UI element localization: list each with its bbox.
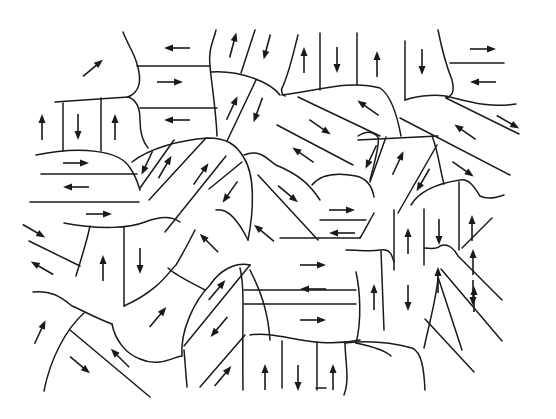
magnetization-arrow-icon — [226, 32, 239, 59]
magnetic-domain-diagram — [0, 0, 556, 419]
magnetization-arrow-icon — [164, 45, 190, 52]
magnetization-arrow-icon — [300, 286, 326, 293]
magnetization-arrow-icon — [63, 160, 89, 167]
magnetization-arrow-icon — [138, 150, 155, 177]
magnetization-arrow-icon — [137, 248, 144, 274]
magnetization-arrow-icon — [81, 57, 105, 79]
magnetization-arrow-icon — [86, 211, 112, 218]
magnetization-arrow-icon — [197, 231, 220, 254]
magnetization-arrow-icon — [212, 364, 234, 388]
magnetization-arrow-icon — [295, 365, 302, 391]
magnetization-arrows — [21, 32, 521, 391]
magnetization-arrow-icon — [63, 184, 89, 191]
magnetization-arrow-icon — [108, 346, 131, 369]
magnetization-arrow-icon — [68, 354, 92, 376]
magnetization-arrow-icon — [250, 97, 265, 124]
magnetization-arrow-icon — [208, 315, 230, 339]
magnetization-arrow-icon — [191, 161, 212, 186]
magnetization-arrow-icon — [469, 215, 476, 241]
magnetization-arrow-icon — [329, 230, 355, 237]
magnetization-arrow-icon — [112, 114, 119, 140]
magnetization-arrow-icon — [329, 207, 355, 214]
magnetization-arrow-icon — [260, 34, 273, 61]
magnetization-arrow-icon — [21, 221, 47, 240]
magnetization-arrow-icon — [100, 255, 107, 281]
magnetization-arrow-icon — [470, 46, 496, 53]
magnetization-arrow-icon — [307, 117, 332, 138]
magnetization-arrow-icon — [334, 47, 341, 73]
magnetization-arrow-icon — [301, 47, 308, 73]
magnetization-arrow-icon — [164, 117, 190, 124]
magnetization-arrow-icon — [374, 51, 381, 77]
magnetization-arrow-icon — [450, 159, 475, 180]
magnetization-arrow-icon — [355, 98, 380, 119]
magnetization-arrow-icon — [220, 179, 241, 204]
magnetization-arrow-icon — [405, 285, 412, 311]
magnetization-arrow-icon — [389, 150, 406, 177]
magnetization-arrow-icon — [470, 249, 477, 275]
magnetization-arrow-icon — [262, 364, 269, 390]
magnetization-arrow-icon — [31, 319, 48, 346]
magnetization-arrow-icon — [436, 219, 443, 245]
magnetization-arrow-icon — [252, 222, 276, 244]
magnetization-arrow-icon — [405, 228, 412, 254]
magnetization-arrow-icon — [330, 364, 337, 390]
magnetization-arrow-icon — [300, 262, 326, 269]
magnetization-arrow-icon — [157, 79, 183, 86]
magnetization-arrow-icon — [452, 122, 477, 143]
magnetization-arrow-icon — [419, 49, 426, 75]
magnetization-arrow-icon — [290, 145, 315, 166]
magnetization-arrow-icon — [29, 258, 55, 277]
magnetization-arrow-icon — [276, 183, 300, 205]
magnetization-arrow-icon — [39, 114, 46, 140]
magnetization-arrow-icon — [147, 305, 169, 329]
magnetization-arrow-icon — [75, 114, 82, 140]
magnetization-arrow-icon — [371, 284, 378, 310]
magnetization-arrow-icon — [206, 278, 228, 302]
magnetization-arrow-icon — [435, 267, 442, 293]
magnetization-arrow-icon — [300, 317, 326, 324]
magnetization-arrow-icon — [470, 79, 496, 86]
